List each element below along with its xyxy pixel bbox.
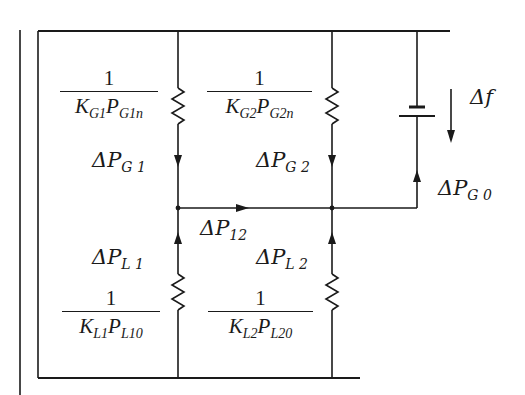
resistor-l2-icon [326,274,338,310]
arrow-up-g0-icon [413,170,421,182]
arrow-up-l1-icon [174,232,182,244]
arrow-right-p12-icon [236,204,249,212]
arrow-down-g1-icon [174,155,182,167]
resistor-l1-icon [172,274,184,310]
label-delta-f: Δf [470,87,493,108]
label-delta-pl2: ΔPL 2 [256,247,308,271]
resistor-g1-icon [172,88,184,124]
arrow-down-delta-f-icon [447,130,455,143]
junction-dot-1 [176,206,181,211]
label-delta-p12: ΔP12 [200,218,247,242]
arrow-down-g2-icon [328,155,336,167]
impedance-l2: 1 KL2PL20 [208,287,313,345]
label-delta-pl1: ΔPL 1 [92,247,144,271]
junction-dot-2 [330,206,335,211]
arrow-up-l2-icon [328,232,336,244]
label-delta-pg2: ΔPG 2 [256,150,310,174]
impedance-g2: 1 KG2PG2n [207,67,312,125]
impedance-l1: 1 KL1PL10 [62,287,160,345]
impedance-g1: 1 KG1PG1n [60,67,158,125]
label-delta-pg1: ΔPG 1 [92,150,146,174]
resistor-g2-icon [326,88,338,124]
label-delta-pg0: ΔPG 0 [438,178,492,202]
